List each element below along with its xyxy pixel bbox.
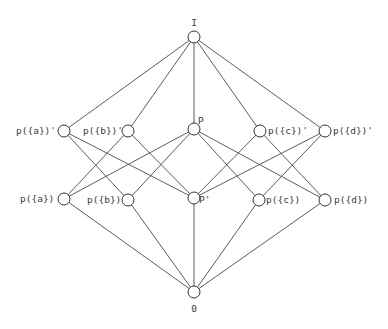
edge-I-bp xyxy=(128,37,194,131)
node-layer xyxy=(58,31,331,298)
node-label-I: I xyxy=(191,17,197,28)
node-d xyxy=(319,194,331,206)
node-label-O: 0 xyxy=(191,303,197,314)
edge-P-d xyxy=(194,129,325,200)
node-O xyxy=(188,286,200,298)
edge-b-O xyxy=(128,200,194,292)
edge-a-O xyxy=(64,199,194,292)
edge-c-O xyxy=(194,200,259,292)
edge-P-b xyxy=(128,129,194,200)
node-b xyxy=(122,194,134,206)
edge-d-O xyxy=(194,200,325,292)
node-bp xyxy=(122,125,134,137)
node-label-c: p({c}) xyxy=(266,194,300,205)
node-label-ap: p({a})' xyxy=(16,125,56,136)
node-label-cp: p({c})' xyxy=(268,125,308,136)
node-a xyxy=(58,193,70,205)
edge-layer xyxy=(64,37,325,292)
edge-P-a xyxy=(64,129,194,199)
node-label-bp: p({b})' xyxy=(83,125,123,136)
node-label-b: p({b}) xyxy=(87,194,121,205)
node-dp xyxy=(319,125,331,137)
node-label-d: p({d}) xyxy=(334,194,368,205)
node-c xyxy=(253,194,265,206)
hasse-diagram: Ip({a})'p({b})'Pp({c})'p({d})'p({a})p({b… xyxy=(0,0,388,329)
node-label-dp: p({d})' xyxy=(333,125,373,136)
edge-I-ap xyxy=(64,37,194,131)
label-layer: Ip({a})'p({b})'Pp({c})'p({d})'p({a})p({b… xyxy=(16,17,373,314)
node-ap xyxy=(58,125,70,137)
node-cp xyxy=(254,125,266,137)
node-label-Pp: P' xyxy=(199,194,210,205)
edge-P-c xyxy=(194,129,259,200)
edge-I-dp xyxy=(194,37,325,131)
node-I xyxy=(188,31,200,43)
node-label-P: P xyxy=(198,115,204,126)
node-label-a: p({a}) xyxy=(20,193,54,204)
edge-I-cp xyxy=(194,37,260,131)
